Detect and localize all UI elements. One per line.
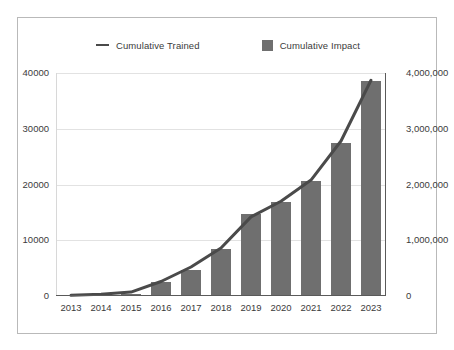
legend-item-cumulative-trained[interactable]: Cumulative Trained xyxy=(96,40,200,51)
bar-slot xyxy=(146,73,176,296)
bar-slot xyxy=(266,73,296,296)
x-axis-tick-label: 2022 xyxy=(326,302,356,313)
x-axis-tick-label: 2014 xyxy=(86,302,116,313)
x-axis-tick-label: 2013 xyxy=(56,302,86,313)
bar-slot xyxy=(206,73,236,296)
bar-slot xyxy=(86,73,116,296)
bar-slot xyxy=(116,73,146,296)
x-axis-ticks: 2013201420152016201720182019202020212022… xyxy=(56,302,386,313)
bar-slot xyxy=(296,73,326,296)
bar-slot xyxy=(56,73,86,296)
x-axis-tick-label: 2021 xyxy=(296,302,326,313)
bar-2017[interactable] xyxy=(181,270,200,296)
y-axis-right-tick-label: 2,000,000 xyxy=(406,180,448,190)
x-axis-baseline xyxy=(56,295,386,296)
bar-slot xyxy=(326,73,356,296)
y-axis-left-tick-label: 0 xyxy=(44,291,49,301)
x-axis-tick-label: 2017 xyxy=(176,302,206,313)
y-axis-left-tick-label: 40000 xyxy=(23,68,49,78)
bar-2020[interactable] xyxy=(271,202,290,296)
plot-area: 010000200003000040000 01,000,0002,000,00… xyxy=(56,73,386,296)
y-axis-right-tick-label: 1,000,000 xyxy=(406,236,448,246)
chart-card: Cumulative Trained Cumulative Impact 010… xyxy=(17,17,437,334)
y-axis-left-tick-label: 20000 xyxy=(23,180,49,190)
y-axis-right-tick-label: 3,000,000 xyxy=(406,124,448,134)
bar-2018[interactable] xyxy=(211,249,230,296)
x-axis-tick-label: 2015 xyxy=(116,302,146,313)
bar-series-cumulative-impact xyxy=(56,73,386,296)
bar-2016[interactable] xyxy=(151,282,170,296)
y-axis-left-tick-label: 10000 xyxy=(23,236,49,246)
y-axis-right-spine xyxy=(385,73,386,296)
x-axis-tick-label: 2020 xyxy=(266,302,296,313)
bar-2019[interactable] xyxy=(241,214,260,297)
y-axis-right-tick-label: 0 xyxy=(406,291,411,301)
x-axis-tick-label: 2019 xyxy=(236,302,266,313)
line-marker-icon xyxy=(96,44,109,46)
bar-2021[interactable] xyxy=(301,181,320,296)
x-axis-tick-label: 2018 xyxy=(206,302,236,313)
legend-item-cumulative-impact[interactable]: Cumulative Impact xyxy=(262,40,360,51)
bar-2023[interactable] xyxy=(361,81,380,296)
chart-legend: Cumulative Trained Cumulative Impact xyxy=(18,35,438,55)
x-axis-tick-label: 2023 xyxy=(356,302,386,313)
legend-label-cumulative-trained: Cumulative Trained xyxy=(116,40,200,51)
x-axis-tick-label: 2016 xyxy=(146,302,176,313)
bar-2022[interactable] xyxy=(331,143,350,296)
square-marker-icon xyxy=(262,40,273,51)
bar-slot xyxy=(236,73,266,296)
y-axis-right-tick-label: 4,000,000 xyxy=(406,68,448,78)
bar-slot xyxy=(356,73,386,296)
y-axis-left-spine xyxy=(56,73,57,296)
bar-slot xyxy=(176,73,206,296)
y-axis-left-tick-label: 30000 xyxy=(23,124,49,134)
legend-label-cumulative-impact: Cumulative Impact xyxy=(280,40,360,51)
